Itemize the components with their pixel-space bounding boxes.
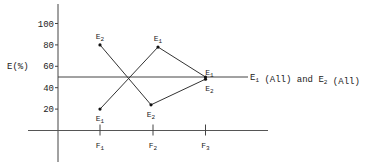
- data-point-e2: [149, 103, 152, 106]
- data-label-e1: E1: [154, 34, 163, 45]
- data-label-e2: E2: [96, 32, 105, 43]
- chart: E(%) 20406080100 F1F2F3 E1 (All) and E2 …: [0, 0, 367, 168]
- data-label-e1: E1: [96, 114, 105, 125]
- y-tick-label: 40: [43, 84, 54, 94]
- y-ticks: 20406080100: [38, 20, 58, 116]
- data-label-e2: E2: [205, 84, 214, 95]
- data-point-e2: [98, 43, 101, 46]
- reference-line-label: E1 (All) and E2 (All): [250, 73, 360, 87]
- x-tick-label-f2: F2: [149, 141, 158, 152]
- y-tick-label: 60: [43, 62, 54, 72]
- data-label-e2: E2: [147, 110, 156, 121]
- series-line-e2: [100, 45, 206, 105]
- y-tick-label: 80: [43, 41, 54, 51]
- y-tick-label: 20: [43, 105, 54, 115]
- x-tick-label-f3: F3: [201, 141, 210, 152]
- data-point-e1: [98, 108, 101, 111]
- y-tick-label: 100: [38, 20, 54, 30]
- x-tick-label-f1: F1: [96, 141, 105, 152]
- data-point-e2: [204, 78, 207, 81]
- series-group: E1E1E1E2E2E2: [96, 32, 214, 125]
- series-line-e1: [100, 47, 206, 109]
- data-point-e1: [156, 45, 159, 48]
- axes: [28, 4, 268, 162]
- y-axis-label: E(%): [7, 62, 29, 72]
- x-ticks: F1F2F3: [96, 125, 210, 152]
